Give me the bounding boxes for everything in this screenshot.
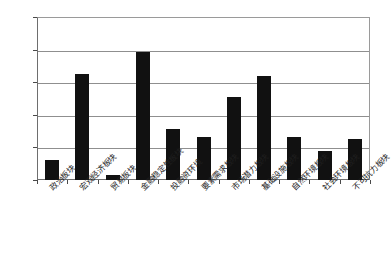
bar [136,52,150,180]
x-axis-tick-mark [37,180,38,184]
x-axis-tick-mark [219,180,220,184]
x-axis-tick-mark [279,180,280,184]
x-axis-tick-mark [370,180,371,184]
x-axis-tick-mark [188,180,189,184]
x-axis-tick-mark [67,180,68,184]
x-axis-tick-mark [128,180,129,184]
x-axis-tick-mark [249,180,250,184]
x-axis-tick-mark [98,180,99,184]
x-axis-tick-mark [340,180,341,184]
bar [75,74,89,180]
x-axis-tick-mark [309,180,310,184]
x-axis-tick-mark [158,180,159,184]
